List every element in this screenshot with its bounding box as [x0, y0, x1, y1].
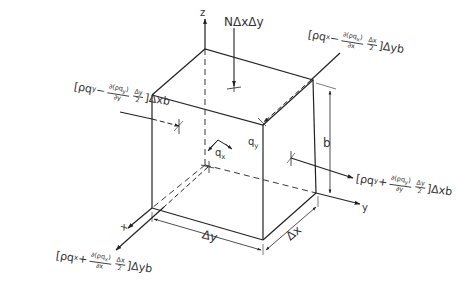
x-axis: [128, 208, 152, 228]
x-out-flux-arrow-dashed: [164, 167, 208, 207]
y-axis-label: y: [362, 203, 368, 213]
y-in-flux-arrow-solid: [120, 112, 152, 119]
dim-b-label: b: [323, 137, 331, 149]
y-out-flux-arrow: [291, 158, 353, 178]
x-in-flux-arrow-dashed: [264, 80, 311, 122]
y-in-flux-arrow-dashed: [152, 119, 179, 126]
y-axis: [316, 193, 360, 204]
x-in-flux-arrow-solid: [311, 53, 340, 80]
z-axis-label: z: [200, 8, 205, 18]
qx-label: qx: [215, 148, 226, 161]
qy-label: qy: [248, 137, 259, 150]
dim-dy-label: Δy: [201, 228, 219, 244]
top-flux-label: NΔxΔy: [224, 16, 264, 28]
